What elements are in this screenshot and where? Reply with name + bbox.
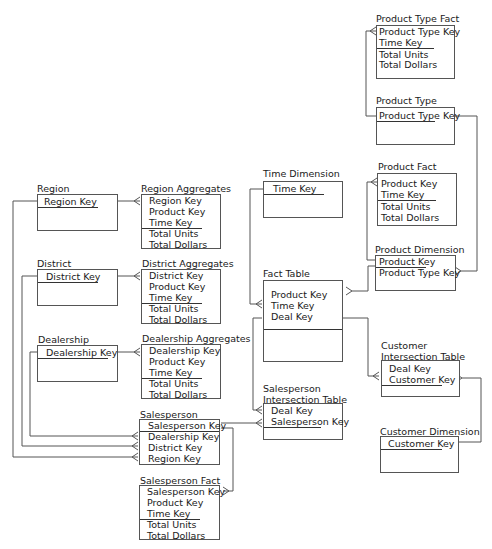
field: Region Key (44, 196, 97, 207)
field: Time Key (381, 189, 425, 200)
field: Product Type Key (379, 110, 460, 121)
field: Total Dollars (381, 212, 439, 223)
district-table[interactable]: District Key (37, 269, 118, 306)
field: Total Units (147, 519, 197, 530)
district-aggregates-title: District Aggregates (142, 258, 234, 269)
field: Time Key (149, 217, 193, 228)
salesperson-fact-table[interactable]: Salesperson Key Product Key Time Key Tot… (139, 485, 220, 540)
field: Time Key (149, 367, 193, 378)
field: Product Key (379, 256, 435, 267)
field: District Key (46, 271, 100, 282)
key-separator (264, 194, 324, 195)
field: Product Type Key (379, 26, 460, 37)
field: Dealership Key (149, 345, 220, 356)
field: Total Units (149, 303, 199, 314)
field: Customer Key (389, 374, 455, 385)
field: Total Units (149, 228, 199, 239)
field: Salesperson Key (271, 416, 349, 427)
field: Salesperson Key (147, 486, 225, 497)
field: Total Dollars (149, 389, 207, 400)
fact-table-title: Fact Table (263, 268, 310, 279)
key-separator (264, 329, 342, 330)
product-type-fact-table[interactable]: Product Type Key Time Key Total Units To… (376, 25, 455, 79)
field: Customer Key (388, 438, 454, 449)
field: Time Key (379, 37, 423, 48)
district-aggregates-table[interactable]: District Key Product Key Time Key Total … (141, 269, 221, 324)
field: Total Dollars (149, 239, 207, 250)
region-aggregates-title: Region Aggregates (141, 183, 231, 194)
field: Product Key (147, 497, 203, 508)
key-separator (38, 358, 108, 359)
key-separator (382, 385, 442, 386)
key-separator (38, 207, 98, 208)
field: Time Key (149, 292, 193, 303)
region-aggregates-table[interactable]: Region Key Product Key Time Key Total Un… (141, 194, 221, 249)
field: Deal Key (271, 405, 313, 416)
field: Total Units (381, 201, 431, 212)
customer-dimension-table[interactable]: Customer Key (380, 436, 459, 473)
customer-intersection-table[interactable]: Deal Key Customer Key (381, 360, 460, 397)
field: Region Key (149, 195, 202, 206)
key-separator (38, 282, 98, 283)
field: Total Units (149, 378, 199, 389)
product-dimension-table[interactable]: Product Key Product Type Key (375, 255, 456, 291)
customer-intersection-title-1: Customer (381, 340, 427, 351)
field: Product Type Key (379, 267, 460, 278)
field: Salesperson Key (148, 420, 226, 431)
dealership-aggregates-table[interactable]: Dealership Key Product Key Time Key Tota… (141, 344, 221, 399)
field: District Key (149, 270, 203, 281)
field: Product Key (271, 289, 327, 300)
field: Time Key (271, 300, 315, 311)
region-table[interactable]: Region Key (37, 194, 118, 231)
field: Product Key (149, 206, 205, 217)
key-separator (381, 449, 442, 450)
salesperson-intersection-title-1: Salesperson (263, 383, 321, 394)
field: Deal Key (271, 311, 313, 322)
region-title: Region (37, 183, 70, 194)
field: Total Dollars (147, 530, 205, 541)
product-type-table[interactable]: Product Type Key (376, 107, 455, 145)
field: Region Key (148, 453, 201, 464)
dealership-table[interactable]: Dealership Key (37, 345, 118, 382)
product-dimension-title: Product Dimension (375, 244, 465, 255)
dealership-aggregates-title: Dealership Aggregates (142, 333, 251, 344)
field: Product Key (149, 281, 205, 292)
field: Product Key (149, 356, 205, 367)
product-type-title: Product Type (376, 95, 437, 106)
key-separator (264, 427, 321, 428)
field: Dealership Key (46, 347, 117, 358)
dealership-title: Dealership (38, 334, 89, 345)
field: Deal Key (389, 363, 431, 374)
product-type-fact-title: Product Type Fact (376, 13, 459, 24)
field: Dealership Key (148, 431, 219, 442)
salesperson-table[interactable]: Salesperson Key Dealership Key District … (139, 419, 220, 465)
field: Total Dollars (379, 59, 437, 70)
product-fact-table[interactable]: Product Key Time Key Total Units Total D… (377, 173, 457, 226)
field: Time Key (273, 183, 317, 194)
field: Total Dollars (149, 314, 207, 325)
salesperson-intersection-table[interactable]: Deal Key Salesperson Key (263, 403, 343, 440)
fact-table[interactable]: Product Key Time Key Deal Key (263, 280, 343, 362)
district-title: District (37, 258, 71, 269)
field: District Key (148, 442, 202, 453)
time-dimension-title: Time Dimension (263, 168, 340, 179)
product-fact-title: Product Fact (378, 161, 436, 172)
key-separator (377, 121, 435, 122)
time-dimension-table[interactable]: Time Key (263, 181, 343, 218)
field: Time Key (147, 508, 191, 519)
field: Product Key (381, 178, 437, 189)
